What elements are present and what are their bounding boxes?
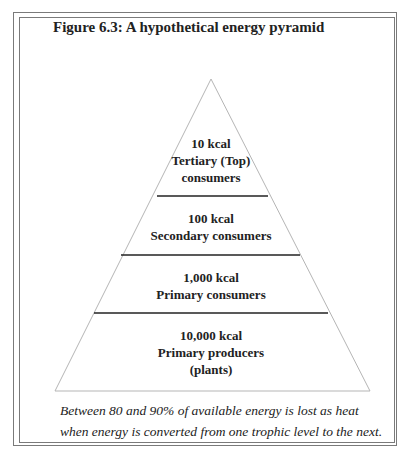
level-tertiary-label: 10 kcal Tertiary (Top) consumers [172,135,251,186]
caption-line-1: Between 80 and 90% of available energy i… [60,400,390,421]
level-primary-consumers-name: Primary consumers [156,286,265,303]
caption-line-2: when energy is converted from one trophi… [60,421,390,442]
level-secondary-energy: 100 kcal [151,210,272,227]
level-primary-consumers-energy: 1,000 kcal [156,269,265,286]
level-primary-consumers-label: 1,000 kcal Primary consumers [156,269,265,303]
level-secondary-name: Secondary consumers [151,227,272,244]
level-producers-label: 10,000 kcal Primary producers (plants) [158,327,264,378]
level-tertiary-energy: 10 kcal [172,135,251,152]
level-producers-name-line2: (plants) [158,361,264,378]
level-producers-energy: 10,000 kcal [158,327,264,344]
level-tertiary-name-line2: consumers [172,169,251,186]
level-producers-name-line1: Primary producers [158,344,264,361]
figure-caption: Between 80 and 90% of available energy i… [60,400,390,442]
level-secondary-label: 100 kcal Secondary consumers [151,210,272,244]
level-tertiary-name-line1: Tertiary (Top) [172,152,251,169]
